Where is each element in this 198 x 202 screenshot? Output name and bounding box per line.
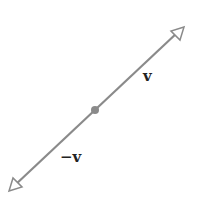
label-v: v: [142, 67, 153, 85]
origin-dot: [91, 106, 99, 114]
vector-diagram-canvas: v −v: [0, 0, 198, 202]
label-negative-v: −v: [60, 148, 83, 166]
vector-diagram: v −v: [0, 0, 198, 202]
